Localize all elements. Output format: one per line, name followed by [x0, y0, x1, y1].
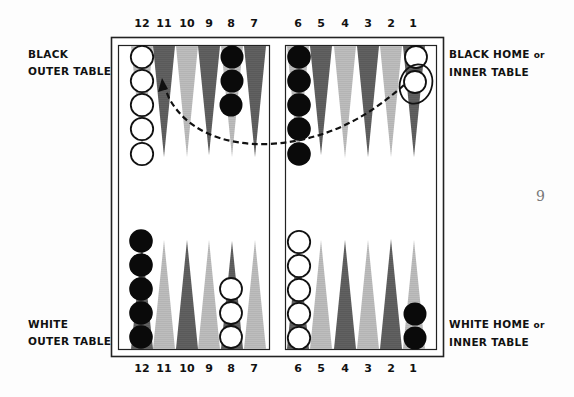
white-checker-highlighted — [404, 71, 426, 93]
white-checker — [288, 255, 310, 277]
black-checker — [129, 277, 153, 301]
white-checker — [288, 303, 310, 325]
black-checker — [287, 142, 311, 166]
black-checker — [404, 303, 427, 326]
checkers-top-12-white — [131, 46, 153, 165]
checkers-bottom-6-white — [288, 231, 310, 349]
black-checker — [220, 94, 243, 117]
white-checker — [220, 326, 242, 348]
white-checker — [131, 70, 153, 92]
backgammon-board — [0, 0, 574, 397]
black-checker — [287, 117, 311, 141]
checkers-bottom-8-white — [220, 278, 242, 348]
black-checker — [287, 45, 311, 69]
black-checker — [129, 301, 153, 325]
white-checker — [288, 279, 310, 301]
white-checker — [131, 46, 153, 68]
white-checker — [131, 94, 153, 116]
black-checker — [129, 325, 153, 349]
black-checker — [404, 327, 427, 350]
white-checker — [220, 302, 242, 324]
checkers-top-8-black — [220, 46, 244, 117]
checkers-top-6-black — [287, 45, 311, 166]
black-checker — [287, 69, 311, 93]
white-checker — [131, 143, 153, 165]
black-checker — [129, 253, 153, 277]
black-checker — [287, 93, 311, 117]
white-checker — [220, 278, 242, 300]
white-checker — [288, 327, 310, 349]
black-checker — [129, 229, 153, 253]
black-checker — [221, 46, 244, 69]
white-checker — [131, 118, 153, 140]
checkers-bottom-12-black — [129, 229, 153, 349]
black-checker — [221, 70, 244, 93]
white-checker — [288, 231, 310, 253]
